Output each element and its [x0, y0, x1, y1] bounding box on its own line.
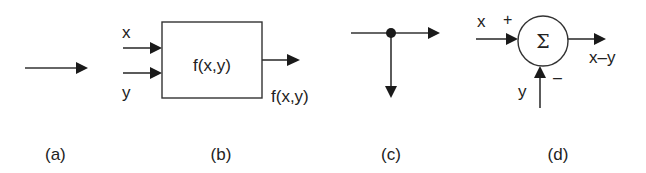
arrowhead-icon [150, 67, 162, 79]
arrowhead-icon [428, 27, 440, 39]
arrowhead-icon [150, 42, 162, 54]
minus-sign: – [553, 69, 562, 86]
arrowhead-icon [287, 54, 300, 66]
sigma-icon: Σ [536, 30, 549, 52]
arrowhead-icon [534, 66, 546, 78]
output-label: x–y [589, 48, 616, 67]
panel-a-signal-arrow: (a) [25, 62, 88, 164]
input-y-label: y [518, 82, 527, 101]
block-diagram-elements: (a) x y f(x,y) f(x,y) (b) (c) x + Σ x–y [0, 0, 646, 173]
panel-d-summing-junction: x + Σ x–y y – (d) [476, 11, 616, 164]
input-x-label: x [477, 12, 486, 31]
arrowhead-icon [385, 86, 397, 98]
function-block-label: f(x,y) [193, 56, 231, 75]
output-label: f(x,y) [271, 87, 309, 106]
input-y-label: y [122, 83, 131, 102]
caption-c: (c) [381, 145, 401, 164]
pickoff-dot-icon [386, 28, 396, 38]
caption-a: (a) [45, 145, 66, 164]
arrowhead-icon [594, 33, 606, 45]
input-x-label: x [122, 23, 131, 42]
panel-c-pickoff-point: (c) [351, 27, 440, 164]
arrowhead-icon [76, 62, 88, 74]
arrowhead-icon [506, 33, 518, 45]
caption-d: (d) [548, 145, 569, 164]
caption-b: (b) [211, 145, 232, 164]
panel-b-function-block: x y f(x,y) f(x,y) (b) [122, 22, 309, 164]
plus-sign: + [503, 11, 512, 28]
